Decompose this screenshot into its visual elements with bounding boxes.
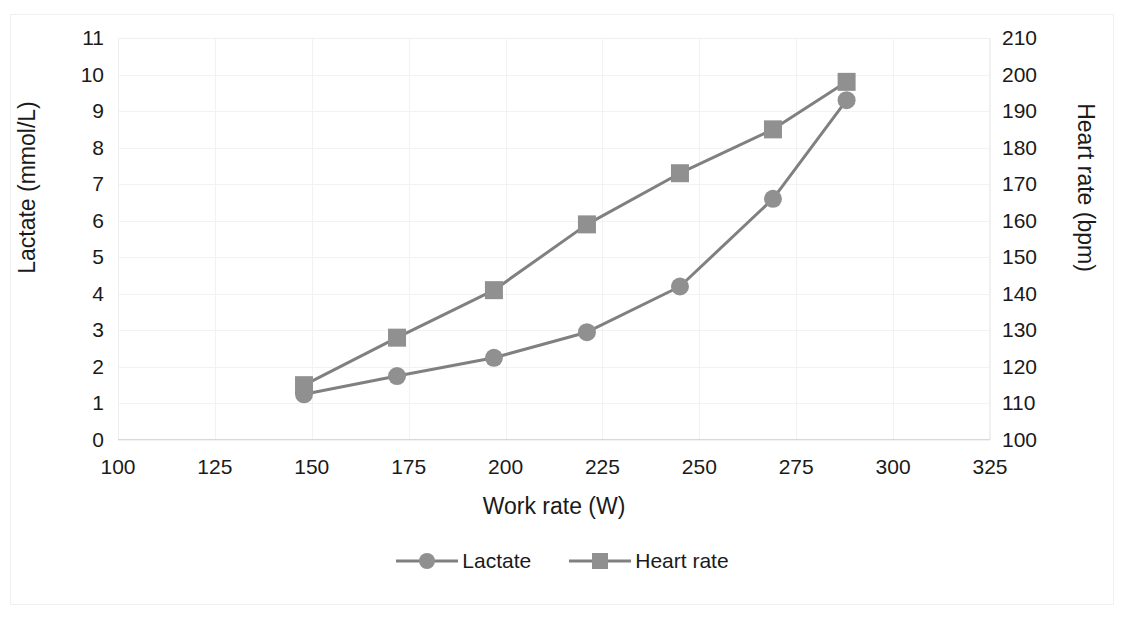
x-axis-tick-label: 250 <box>682 455 717 479</box>
y-axis-left-tick-label: 0 <box>92 428 104 452</box>
plot-area <box>118 38 990 440</box>
x-axis-tick-label: 325 <box>972 455 1007 479</box>
legend-item-heart-rate[interactable]: Heart rate <box>569 549 728 573</box>
gridline-horizontal <box>118 440 990 441</box>
y-axis-left-tick-label: 9 <box>92 99 104 123</box>
legend-item-lactate[interactable]: Lactate <box>396 549 531 573</box>
x-axis-tick-label: 300 <box>876 455 911 479</box>
y-axis-right-ticks: 100110120130140150160170180190200210 <box>1002 38 1062 440</box>
clipped-header-text <box>120 0 720 2</box>
circle-marker-icon <box>578 323 596 341</box>
series-heart-rate <box>295 73 856 394</box>
y-axis-left-title: Lactate (mmol/L) <box>14 58 41 318</box>
circle-marker-icon <box>671 278 689 296</box>
y-axis-right-tick-label: 150 <box>1002 245 1037 269</box>
x-axis-tick-label: 200 <box>488 455 523 479</box>
y-axis-right-tick-label: 120 <box>1002 355 1037 379</box>
y-axis-left-tick-label: 4 <box>92 282 104 306</box>
y-axis-left-ticks: 01234567891011 <box>48 38 104 440</box>
chart-legend: Lactate Heart rate <box>0 549 1125 573</box>
x-axis-tick-label: 225 <box>585 455 620 479</box>
y-axis-left-tick-label: 11 <box>82 26 104 50</box>
square-marker-icon <box>838 73 856 91</box>
square-marker-icon <box>671 164 689 182</box>
y-axis-left-tick-label: 10 <box>81 63 104 87</box>
y-axis-left-tick-label: 2 <box>92 355 104 379</box>
y-axis-left-tick-label: 7 <box>92 172 104 196</box>
circle-marker-icon <box>396 550 458 572</box>
y-axis-right-tick-label: 170 <box>1002 172 1037 196</box>
legend-label-lactate: Lactate <box>462 549 531 573</box>
circle-marker-icon <box>838 91 856 109</box>
series-line <box>304 100 847 394</box>
x-axis-tick-label: 100 <box>100 455 135 479</box>
x-axis-title: Work rate (W) <box>118 493 990 520</box>
y-axis-right-tick-label: 100 <box>1002 428 1037 452</box>
y-axis-left-tick-label: 5 <box>92 245 104 269</box>
circle-marker-icon <box>485 349 503 367</box>
x-axis-ticks: 100125150175200225250275300325 <box>118 455 990 483</box>
data-series-layer <box>118 38 990 440</box>
square-marker-icon <box>388 329 406 347</box>
x-axis-tick-label: 125 <box>197 455 232 479</box>
y-axis-right-tick-label: 200 <box>1002 63 1037 87</box>
legend-label-heart-rate: Heart rate <box>635 549 728 573</box>
y-axis-right-tick-label: 210 <box>1002 26 1037 50</box>
square-marker-icon <box>764 120 782 138</box>
square-marker-icon <box>295 376 313 394</box>
y-axis-left-tick-label: 6 <box>92 209 104 233</box>
y-axis-left-tick-label: 1 <box>92 391 104 415</box>
y-axis-right-tick-label: 140 <box>1002 282 1037 306</box>
y-axis-left-tick-label: 3 <box>92 318 104 342</box>
square-marker-icon <box>569 550 631 572</box>
x-axis-tick-label: 175 <box>391 455 426 479</box>
y-axis-right-tick-label: 190 <box>1002 99 1037 123</box>
square-marker-icon <box>578 215 596 233</box>
y-axis-right-tick-label: 110 <box>1002 391 1035 415</box>
y-axis-right-tick-label: 130 <box>1002 318 1037 342</box>
circle-marker-icon <box>764 190 782 208</box>
y-axis-right-tick-label: 180 <box>1002 136 1037 160</box>
square-marker-icon <box>485 281 503 299</box>
y-axis-right-tick-label: 160 <box>1002 209 1037 233</box>
chart-figure: 01234567891011 1001101201301401501601701… <box>0 0 1125 624</box>
gridline-vertical <box>990 38 991 440</box>
y-axis-right-title: Heart rate (bpm) <box>1072 58 1099 318</box>
y-axis-left-tick-label: 8 <box>92 136 104 160</box>
x-axis-tick-label: 150 <box>294 455 329 479</box>
circle-marker-icon <box>388 367 406 385</box>
x-axis-tick-label: 275 <box>779 455 814 479</box>
